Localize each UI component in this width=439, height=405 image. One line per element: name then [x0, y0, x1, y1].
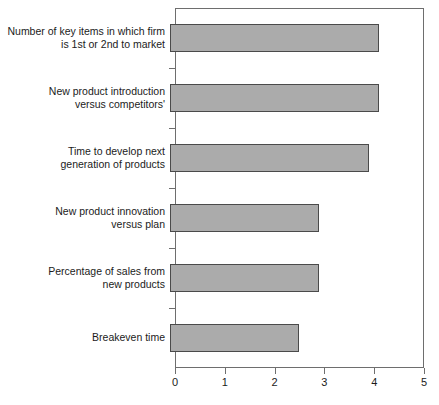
y-axis-tick — [169, 308, 176, 309]
bar — [170, 204, 319, 232]
y-axis-tick — [169, 128, 176, 129]
x-axis-tick — [324, 368, 325, 374]
bar-track — [170, 308, 419, 368]
y-axis-tick — [169, 248, 176, 249]
bar-track — [170, 248, 419, 308]
category-label: Percentage of sales from new products — [0, 265, 170, 292]
horizontal-bar-chart: Number of key items in which firm is 1st… — [0, 0, 439, 405]
x-axis-tick-label: 3 — [309, 376, 339, 389]
bar — [170, 144, 369, 172]
x-axis-tick — [275, 368, 276, 374]
category-rows: Number of key items in which firm is 1st… — [0, 8, 439, 368]
x-axis-tick — [175, 368, 176, 374]
bar-track — [170, 8, 419, 68]
category-label: Time to develop next generation of produ… — [0, 145, 170, 172]
x-axis-tick — [374, 368, 375, 374]
category-label: New product introduction versus competit… — [0, 85, 170, 112]
x-axis-tick — [424, 368, 425, 374]
x-axis-tick-label: 0 — [160, 376, 190, 389]
bar — [170, 324, 299, 352]
bar-track — [170, 68, 419, 128]
x-axis-line — [175, 367, 424, 368]
bar-track — [170, 188, 419, 248]
chart-row: Number of key items in which firm is 1st… — [0, 8, 439, 68]
bar-track — [170, 128, 419, 188]
x-axis-tick-label: 2 — [260, 376, 290, 389]
y-axis-tick — [169, 188, 176, 189]
category-label: Number of key items in which firm is 1st… — [0, 25, 170, 52]
bar — [170, 84, 379, 112]
chart-row: Percentage of sales from new products — [0, 248, 439, 308]
x-axis-tick-label: 1 — [210, 376, 240, 389]
chart-row: Time to develop next generation of produ… — [0, 128, 439, 188]
y-axis-tick — [169, 68, 176, 69]
chart-row: Breakeven time — [0, 308, 439, 368]
x-axis-tick-label: 4 — [359, 376, 389, 389]
x-axis-tick — [225, 368, 226, 374]
x-axis-tick-label: 5 — [409, 376, 439, 389]
chart-row: New product introduction versus competit… — [0, 68, 439, 128]
bar — [170, 24, 379, 52]
category-label: Breakeven time — [0, 331, 170, 345]
chart-row: New product innovation versus plan — [0, 188, 439, 248]
bar — [170, 264, 319, 292]
category-label: New product innovation versus plan — [0, 205, 170, 232]
